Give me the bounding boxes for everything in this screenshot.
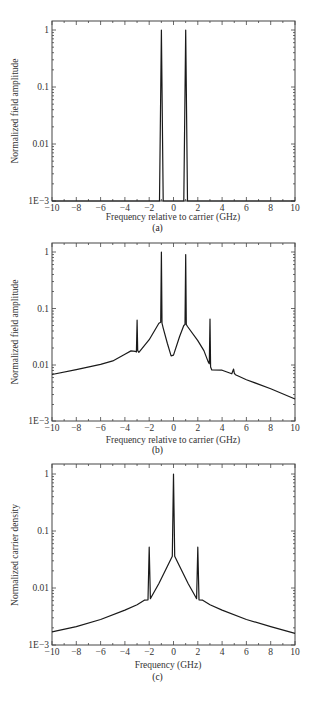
x-tick-label: −2	[144, 647, 154, 657]
x-tick-label: −6	[96, 423, 106, 433]
y-tick-label: 0.01	[32, 360, 49, 370]
chart-b-y-tick-labels: 10.10.011E−3	[28, 247, 49, 426]
chart-b-frame	[52, 243, 295, 421]
chart-c-y-tick-labels: 10.10.011E−3	[28, 469, 49, 650]
chart-c-x-axis-label: Frequency (GHz)	[135, 660, 202, 671]
chart-b-x-tick-labels: −10−8−6−4−20246810	[45, 423, 300, 433]
chart-panel-c: −10−8−6−4−20246810 10.10.011E−3 Frequenc…	[0, 455, 315, 701]
x-tick-label: 4	[220, 423, 225, 433]
y-tick-label: 0.1	[37, 82, 49, 92]
chart-b-series-line	[52, 252, 295, 399]
x-tick-label: 2	[195, 423, 200, 433]
chart-c-series-line	[52, 474, 295, 633]
x-tick-label: 10	[290, 647, 300, 657]
x-tick-label: −8	[71, 647, 81, 657]
chart-a-series-line	[52, 30, 295, 201]
x-tick-label: 8	[268, 647, 273, 657]
x-tick-label: −4	[120, 647, 130, 657]
y-tick-label: 1	[44, 25, 49, 35]
chart-panel-a: −10−8−6−4−20246810 10.10.011E−3 Frequenc…	[0, 0, 315, 230]
chart-a: −10−8−6−4−20246810 10.10.011E−3 Frequenc…	[0, 0, 315, 230]
x-tick-label: −6	[96, 647, 106, 657]
chart-a-y-tick-labels: 10.10.011E−3	[28, 25, 49, 206]
chart-a-y-axis-label: Normalized field amplitude	[10, 59, 20, 164]
x-tick-label: 0	[171, 647, 176, 657]
y-tick-label: 1	[44, 247, 49, 257]
x-tick-label: 2	[195, 647, 200, 657]
y-tick-label: 0.01	[32, 583, 49, 593]
x-tick-label: 10	[290, 203, 300, 213]
chart-a-ticks	[52, 21, 295, 201]
chart-panel-b: −10−8−6−4−20246810 10.10.011E−3 Frequenc…	[0, 230, 315, 460]
x-tick-label: −6	[96, 203, 106, 213]
chart-b-y-axis-label: Normalized field amplitude	[10, 280, 20, 385]
chart-c-y-axis-label: Normalized carrier density	[10, 504, 20, 606]
x-tick-label: 10	[290, 423, 300, 433]
chart-b-ticks	[52, 243, 295, 421]
x-tick-label: 6	[244, 203, 249, 213]
x-tick-label: 0	[171, 423, 176, 433]
x-tick-label: 6	[244, 647, 249, 657]
x-tick-label: −8	[71, 203, 81, 213]
x-tick-label: 8	[268, 423, 273, 433]
chart-b-caption: (b)	[0, 445, 315, 455]
chart-a-x-axis-label: Frequency relative to carrier (GHz)	[106, 212, 241, 223]
y-tick-label: 1E−3	[28, 640, 49, 650]
y-tick-label: 0.1	[37, 304, 49, 314]
x-tick-label: −4	[120, 423, 130, 433]
y-tick-label: 1	[44, 469, 49, 479]
y-tick-label: 1E−3	[28, 196, 49, 206]
x-tick-label: 6	[244, 423, 249, 433]
x-tick-label: 4	[220, 647, 225, 657]
chart-c: −10−8−6−4−20246810 10.10.011E−3 Frequenc…	[0, 455, 315, 701]
y-tick-label: 0.1	[37, 526, 49, 536]
x-tick-label: −8	[71, 423, 81, 433]
chart-c-x-tick-labels: −10−8−6−4−20246810	[45, 647, 300, 657]
y-tick-label: 1E−3	[28, 416, 49, 426]
y-tick-label: 0.01	[32, 139, 49, 149]
chart-c-caption: (c)	[0, 672, 315, 682]
x-tick-label: −2	[144, 423, 154, 433]
chart-b: −10−8−6−4−20246810 10.10.011E−3 Frequenc…	[0, 230, 315, 460]
chart-a-frame	[52, 21, 295, 201]
x-tick-label: 8	[268, 203, 273, 213]
